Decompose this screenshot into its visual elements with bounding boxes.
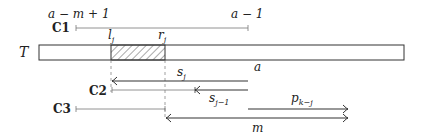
label-s-j-minus-1: sj−1: [209, 91, 229, 107]
case-c2-label: C2: [89, 84, 107, 98]
hatched-segment: [111, 45, 165, 60]
label-a-minus-1: a − 1: [231, 7, 263, 21]
c3-range-line: [76, 106, 165, 112]
label-m: m: [252, 121, 263, 135]
label-a-minus-m-plus-1: a − m + 1: [48, 7, 110, 21]
c2-range-line: [112, 87, 195, 93]
case-c3-label: C3: [53, 102, 71, 116]
label-p-k-minus-j: pk−j: [291, 91, 313, 107]
label-a: a: [254, 60, 261, 74]
string-matching-diagram: a − m + 1 a − 1 C1 lj rj T a sj C2: [0, 0, 425, 138]
label-l: lj: [108, 28, 115, 44]
label-r: rj: [158, 28, 167, 44]
label-s-j: sj: [177, 65, 186, 81]
text-T-rectangle: [39, 45, 404, 60]
case-c1-label: C1: [52, 21, 70, 35]
s-j-minus-1-arrow: [195, 86, 248, 94]
text-label-T: T: [19, 44, 30, 60]
